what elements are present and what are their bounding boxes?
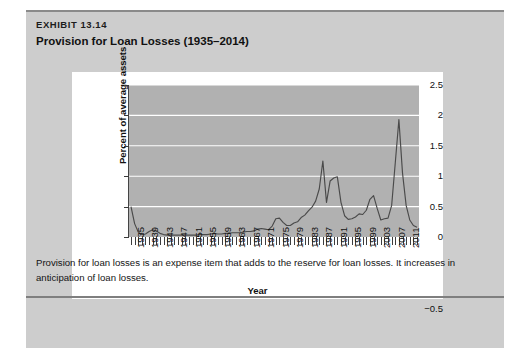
- y-tick-label: 2: [391, 110, 443, 120]
- grid-lines: [129, 85, 419, 207]
- x-tick-label: 2011: [410, 228, 421, 248]
- x-tick-label: 1967: [251, 227, 262, 248]
- x-tick-label: 1995: [352, 227, 363, 248]
- y-tick-label: −0.5: [391, 304, 443, 314]
- y-tick-label: 1.5: [391, 141, 443, 151]
- y-tick-mark: [124, 85, 129, 86]
- y-tick-mark: [124, 115, 129, 116]
- x-tick-label: 1971: [265, 227, 276, 248]
- top-divider: [26, 10, 504, 12]
- plot-area: [129, 85, 419, 237]
- x-tick-label: 2003: [381, 227, 392, 248]
- x-tick-mark: [131, 237, 132, 245]
- y-tick-mark: [124, 146, 129, 147]
- x-axis-title: Year: [72, 285, 443, 296]
- y-tick-mark: [124, 176, 129, 177]
- exhibit-title: Provision for Loan Losses (1935–2014): [36, 33, 476, 49]
- y-tick-mark: [124, 207, 129, 208]
- x-tick-label: 2007: [396, 227, 407, 248]
- x-tick-label: 1979: [294, 227, 305, 248]
- x-tick-label: 1943: [164, 227, 175, 248]
- footer-note: Provision for loan losses is an expense …: [36, 256, 484, 285]
- x-tick-label: 1947: [178, 227, 189, 248]
- x-tick-mark: [218, 237, 219, 245]
- chart-svg: [129, 85, 419, 237]
- x-tick-label: 1959: [222, 227, 233, 248]
- y-tick-label: 1: [391, 171, 443, 181]
- x-tick-mark: [160, 237, 161, 245]
- x-tick-label: 1999: [367, 227, 378, 248]
- x-tick-label: 1983: [309, 227, 320, 248]
- exhibit-figure: EXHIBIT 13.14 Provision for Loan Losses …: [0, 0, 514, 357]
- exhibit-panel: EXHIBIT 13.14 Provision for Loan Losses …: [26, 10, 504, 348]
- exhibit-number: EXHIBIT 13.14: [36, 18, 476, 32]
- exhibit-header: EXHIBIT 13.14 Provision for Loan Losses …: [36, 18, 476, 49]
- x-tick-label: 1987: [323, 227, 334, 248]
- x-tick-mark: [189, 237, 190, 245]
- y-tick-label: 2.5: [391, 80, 443, 90]
- y-tick-label: 0.5: [391, 202, 443, 212]
- exhibit-footer: Provision for loan losses is an expense …: [36, 256, 494, 285]
- x-tick-label: 1935: [135, 227, 146, 248]
- x-tick-label: 1951: [193, 227, 204, 248]
- x-tick-label: 1975: [280, 227, 291, 248]
- x-tick-label: 1991: [338, 227, 349, 248]
- x-tick-label: 1939: [149, 227, 160, 248]
- x-tick-label: 1955: [207, 227, 218, 248]
- bottom-divider: [26, 296, 504, 298]
- data-series-line: [131, 120, 417, 236]
- x-tick-label: 1963: [236, 227, 247, 248]
